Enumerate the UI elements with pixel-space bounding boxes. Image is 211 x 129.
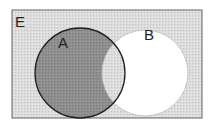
set-a-label: A [58,34,68,51]
venn-diagram: E A B [0,0,211,129]
universe-label: E [15,13,25,30]
set-b-label: B [144,26,154,43]
